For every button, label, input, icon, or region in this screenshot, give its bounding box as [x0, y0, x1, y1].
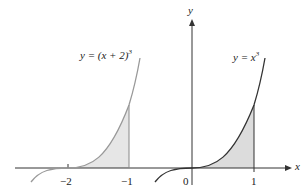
tick-label-0: 0	[183, 175, 189, 187]
y-axis-label: y	[188, 4, 193, 16]
tick-label-1: 1	[251, 175, 257, 187]
tick-label-minus-2: −2	[60, 175, 72, 187]
left-shaded-area	[68, 105, 129, 168]
right-shaded-area	[192, 105, 254, 168]
right-curve-label: y = x3	[233, 50, 259, 63]
x-axis-arrow-icon	[285, 165, 292, 171]
y-axis-arrow-icon	[189, 19, 195, 26]
x-axis-label: x	[295, 160, 300, 172]
tick-label-minus-1: −1	[121, 175, 133, 187]
plot-canvas	[0, 0, 305, 195]
left-curve-label: y = (x + 2)3	[80, 48, 132, 61]
